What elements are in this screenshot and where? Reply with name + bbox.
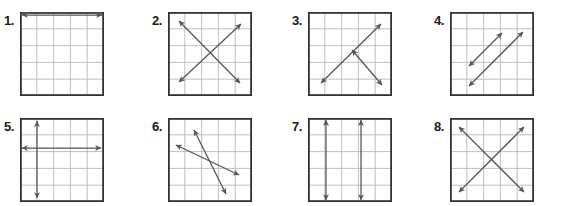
worksheet-canvas: 1.2.3.4.5.6.7.8. xyxy=(0,0,570,206)
figure-line xyxy=(179,24,241,82)
problem-3-figure xyxy=(308,12,392,96)
figure-line xyxy=(352,50,382,85)
problem-3: 3. xyxy=(292,12,392,96)
problem-4: 4. xyxy=(434,12,534,96)
problem-7-grid xyxy=(308,118,392,202)
problem-6: 6. xyxy=(152,118,252,202)
problem-3-number: 3. xyxy=(292,12,308,27)
problem-4-figure xyxy=(450,12,534,96)
problem-5-grid xyxy=(20,118,104,202)
problem-8-number: 8. xyxy=(434,118,450,133)
problem-7-figure xyxy=(308,118,392,202)
figure-line xyxy=(469,33,502,66)
figure-line xyxy=(176,145,239,175)
problem-7-number: 7. xyxy=(292,118,308,133)
problem-5-number: 5. xyxy=(4,118,20,133)
problem-5-figure xyxy=(20,118,104,202)
grid-border xyxy=(169,13,251,95)
problem-6-number: 6. xyxy=(152,118,168,133)
grid-border xyxy=(21,13,103,95)
problem-2: 2. xyxy=(152,12,252,96)
problem-7: 7. xyxy=(292,118,392,202)
problem-3-grid xyxy=(308,12,392,96)
figure-line xyxy=(194,130,226,194)
problem-2-figure xyxy=(168,12,252,96)
problem-8: 8. xyxy=(434,118,534,202)
problem-1-figure xyxy=(20,12,104,96)
problem-1-grid xyxy=(20,12,104,96)
problem-5: 5. xyxy=(4,118,104,202)
problem-2-grid xyxy=(168,12,252,96)
problem-4-number: 4. xyxy=(434,12,450,27)
grid-border xyxy=(309,119,391,201)
problem-2-number: 2. xyxy=(152,12,168,27)
grid-border xyxy=(451,13,533,95)
problem-8-grid xyxy=(450,118,534,202)
problem-4-grid xyxy=(450,12,534,96)
problem-8-figure xyxy=(450,118,534,202)
problem-6-grid xyxy=(168,118,252,202)
problem-1: 1. xyxy=(4,12,104,96)
grid-border xyxy=(21,119,103,201)
problem-1-number: 1. xyxy=(4,12,20,27)
figure-line xyxy=(469,32,523,86)
problem-6-figure xyxy=(168,118,252,202)
grid-border xyxy=(169,119,251,201)
